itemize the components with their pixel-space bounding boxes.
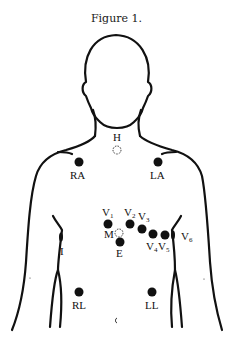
navel-mark <box>116 318 118 323</box>
arm-inner-right-2 <box>171 270 175 327</box>
electrode-la <box>154 158 163 167</box>
neck-right <box>139 110 141 136</box>
label-v1: V1 <box>102 207 113 220</box>
label-v2: V2 <box>124 207 135 220</box>
electrode-v5 <box>161 231 170 240</box>
electrode-h <box>113 146 121 154</box>
electrode-m <box>115 229 123 237</box>
label-v5: V5 <box>158 241 169 254</box>
electrode-v3 <box>138 225 147 234</box>
shoulder-crease-left <box>58 152 72 154</box>
electrode-v4 <box>149 230 158 239</box>
electrode-v6 <box>171 231 175 240</box>
arm-inner-left-2 <box>58 270 61 327</box>
speck-right <box>203 278 204 279</box>
label-v4: V4 <box>146 241 157 254</box>
electrode-e <box>116 238 125 247</box>
label-la: LA <box>150 170 165 181</box>
electrode-ra <box>75 158 84 167</box>
speck-left <box>29 277 30 278</box>
label-v6: V6 <box>181 231 192 244</box>
electrode-i <box>59 233 63 242</box>
shoulder-crease-right <box>162 152 176 154</box>
label-v3: V3 <box>138 211 149 224</box>
label-ra: RA <box>70 170 85 181</box>
label-m: M <box>104 229 114 240</box>
electrode-ll <box>148 288 157 297</box>
electrode-rl <box>75 288 84 297</box>
torso-diagram <box>0 0 233 341</box>
label-e: E <box>116 248 123 259</box>
head-outline <box>83 35 152 128</box>
neck-left <box>93 110 96 136</box>
label-i: I <box>60 246 64 257</box>
label-rl: RL <box>72 300 86 311</box>
label-h: H <box>113 132 121 143</box>
label-ll: LL <box>145 300 158 311</box>
electrode-v2 <box>126 220 135 229</box>
